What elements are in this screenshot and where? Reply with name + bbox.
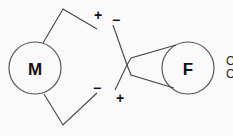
sign-bottom-left: − bbox=[93, 80, 101, 96]
field-wire-bottom bbox=[127, 65, 174, 88]
field-label: F bbox=[183, 60, 193, 79]
sign-bottom-right: + bbox=[116, 90, 124, 106]
edge-text-line-1: C bbox=[226, 54, 233, 68]
cross-line-upper bbox=[113, 25, 127, 65]
top-wire bbox=[43, 9, 97, 43]
sign-top-right: − bbox=[112, 12, 120, 28]
cross-line-lower bbox=[115, 65, 127, 90]
sign-top-left: + bbox=[94, 7, 102, 23]
motor-label: M bbox=[28, 60, 42, 79]
circuit-diagram: M F + − − + C C bbox=[0, 0, 233, 136]
bottom-wire bbox=[44, 93, 97, 125]
field-wire-top bbox=[127, 45, 176, 65]
edge-text-line-2: C bbox=[226, 67, 233, 81]
diagram-svg: M F + − − + C C bbox=[0, 0, 233, 136]
motor-symbol: M bbox=[9, 42, 61, 94]
